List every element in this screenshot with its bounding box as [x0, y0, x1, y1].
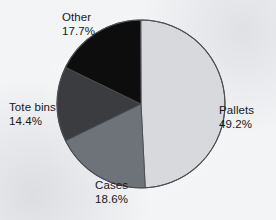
slice-label-pallets-name: Pallets [219, 104, 254, 118]
pie-slice-group [57, 20, 225, 188]
slice-label-cases-name: Cases [95, 179, 128, 193]
slice-label-pallets-percent: 49.2% [219, 118, 254, 132]
slice-label-pallets: Pallets 49.2% [219, 104, 254, 131]
slice-label-other-name: Other [62, 11, 95, 25]
pie-slice-pallets [141, 20, 225, 188]
slice-label-cases-percent: 18.6% [95, 193, 128, 207]
slice-label-tote-bins: Tote bins 14.4% [9, 101, 56, 128]
slice-label-tote-bins-percent: 14.4% [9, 115, 56, 129]
slice-label-cases: Cases 18.6% [95, 179, 128, 206]
slice-label-tote-bins-name: Tote bins [9, 101, 56, 115]
pie-chart-figure: Other 17.7% Pallets 49.2% Tote bins 14.4… [0, 0, 276, 220]
slice-label-other: Other 17.7% [62, 11, 95, 38]
slice-label-other-percent: 17.7% [62, 25, 95, 39]
